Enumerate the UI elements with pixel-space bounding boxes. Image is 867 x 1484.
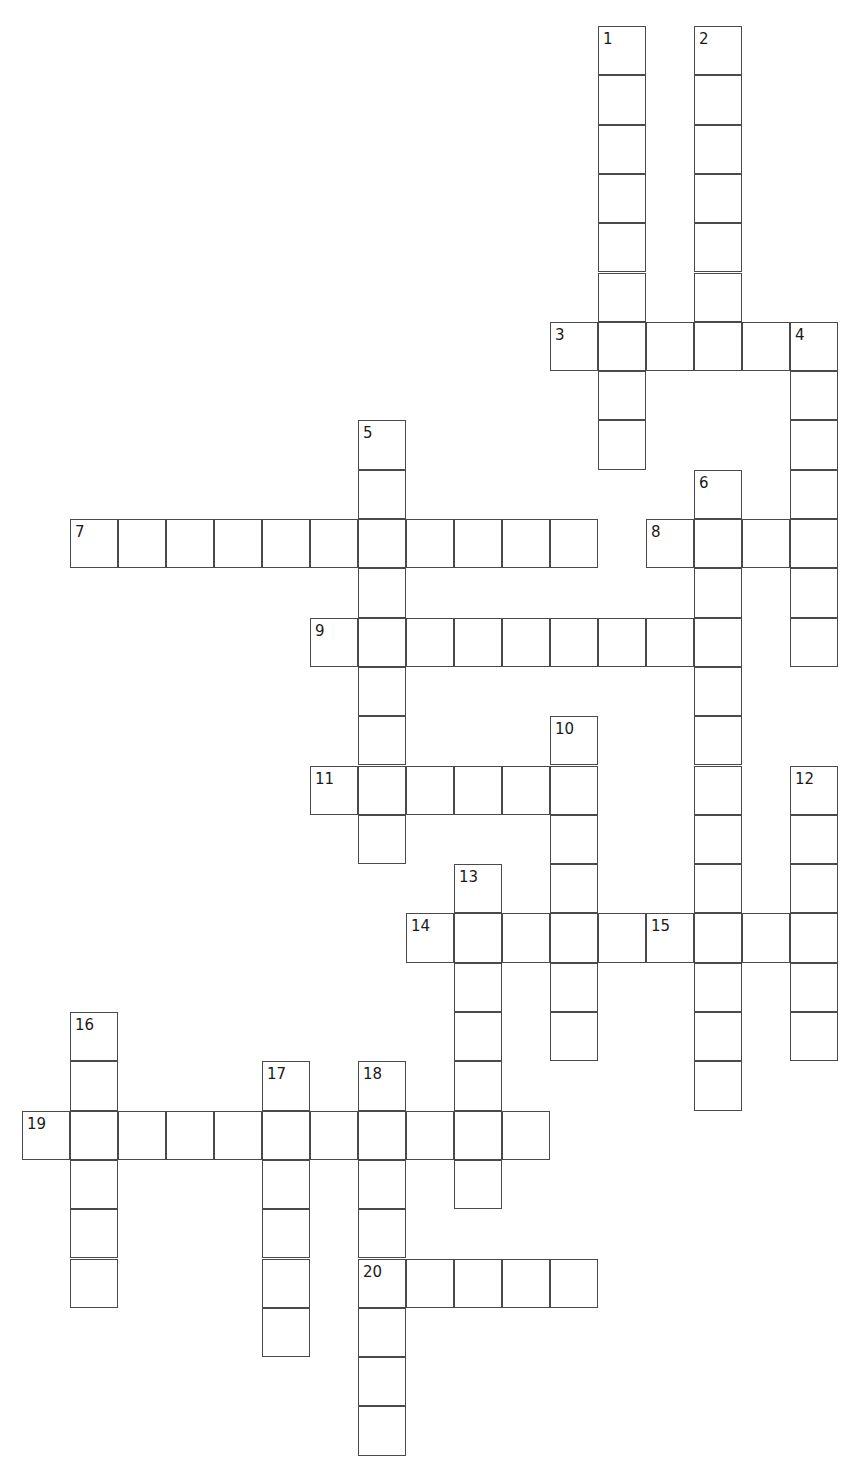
crossword-cell[interactable] xyxy=(454,963,502,1012)
crossword-cell[interactable] xyxy=(598,913,646,962)
crossword-cell[interactable] xyxy=(454,864,502,913)
crossword-cell[interactable] xyxy=(694,273,742,322)
crossword-cell[interactable] xyxy=(598,223,646,272)
crossword-cell[interactable] xyxy=(550,963,598,1012)
crossword-cell[interactable] xyxy=(694,223,742,272)
crossword-cell[interactable] xyxy=(262,1111,310,1160)
crossword-cell[interactable] xyxy=(502,618,550,667)
crossword-cell[interactable] xyxy=(454,1259,502,1308)
crossword-cell[interactable] xyxy=(694,125,742,174)
crossword-cell[interactable] xyxy=(502,1259,550,1308)
crossword-cell[interactable] xyxy=(310,766,358,815)
crossword-cell[interactable] xyxy=(790,1012,838,1061)
crossword-cell[interactable] xyxy=(694,75,742,124)
crossword-cell[interactable] xyxy=(358,618,406,667)
crossword-cell[interactable] xyxy=(214,1111,262,1160)
crossword-cell[interactable] xyxy=(694,174,742,223)
crossword-cell[interactable] xyxy=(502,913,550,962)
crossword-cell[interactable] xyxy=(166,519,214,568)
crossword-cell[interactable] xyxy=(694,519,742,568)
crossword-cell[interactable] xyxy=(454,766,502,815)
crossword-cell[interactable] xyxy=(70,1259,118,1308)
crossword-cell[interactable] xyxy=(646,322,694,371)
crossword-cell[interactable] xyxy=(454,1160,502,1209)
crossword-cell[interactable] xyxy=(358,766,406,815)
crossword-cell[interactable] xyxy=(70,519,118,568)
crossword-cell[interactable] xyxy=(646,913,694,962)
crossword-cell[interactable] xyxy=(598,75,646,124)
crossword-cell[interactable] xyxy=(790,420,838,469)
crossword-cell[interactable] xyxy=(262,1209,310,1258)
crossword-cell[interactable] xyxy=(550,815,598,864)
crossword-cell[interactable] xyxy=(598,125,646,174)
crossword-cell[interactable] xyxy=(742,519,790,568)
crossword-cell[interactable] xyxy=(214,519,262,568)
crossword-cell[interactable] xyxy=(502,766,550,815)
crossword-cell[interactable] xyxy=(454,1111,502,1160)
crossword-cell[interactable] xyxy=(694,815,742,864)
crossword-cell[interactable] xyxy=(358,1357,406,1406)
crossword-cell[interactable] xyxy=(310,618,358,667)
crossword-cell[interactable] xyxy=(118,519,166,568)
crossword-cell[interactable] xyxy=(694,568,742,617)
crossword-cell[interactable] xyxy=(598,420,646,469)
crossword-cell[interactable] xyxy=(358,1061,406,1110)
crossword-cell[interactable] xyxy=(550,322,598,371)
crossword-cell[interactable] xyxy=(358,1406,406,1455)
crossword-cell[interactable] xyxy=(406,519,454,568)
crossword-cell[interactable] xyxy=(790,470,838,519)
crossword-cell[interactable] xyxy=(406,1111,454,1160)
crossword-cell[interactable] xyxy=(742,322,790,371)
crossword-cell[interactable] xyxy=(310,1111,358,1160)
crossword-cell[interactable] xyxy=(406,913,454,962)
crossword-cell[interactable] xyxy=(454,519,502,568)
crossword-cell[interactable] xyxy=(358,519,406,568)
crossword-grid[interactable]: 1234567891011121314151617181920 xyxy=(0,0,867,1484)
crossword-cell[interactable] xyxy=(358,815,406,864)
crossword-cell[interactable] xyxy=(598,174,646,223)
crossword-cell[interactable] xyxy=(550,864,598,913)
crossword-cell[interactable] xyxy=(790,815,838,864)
crossword-cell[interactable] xyxy=(646,519,694,568)
crossword-cell[interactable] xyxy=(694,470,742,519)
crossword-cell[interactable] xyxy=(406,618,454,667)
crossword-cell[interactable] xyxy=(358,667,406,716)
crossword-cell[interactable] xyxy=(598,273,646,322)
crossword-cell[interactable] xyxy=(790,963,838,1012)
crossword-cell[interactable] xyxy=(358,1160,406,1209)
crossword-cell[interactable] xyxy=(550,519,598,568)
crossword-cell[interactable] xyxy=(694,26,742,75)
crossword-cell[interactable] xyxy=(694,667,742,716)
crossword-cell[interactable] xyxy=(70,1160,118,1209)
crossword-cell[interactable] xyxy=(454,913,502,962)
crossword-cell[interactable] xyxy=(502,519,550,568)
crossword-cell[interactable] xyxy=(790,913,838,962)
crossword-cell[interactable] xyxy=(262,1061,310,1110)
crossword-cell[interactable] xyxy=(358,1308,406,1357)
crossword-cell[interactable] xyxy=(70,1209,118,1258)
crossword-cell[interactable] xyxy=(550,913,598,962)
crossword-cell[interactable] xyxy=(694,913,742,962)
crossword-cell[interactable] xyxy=(70,1111,118,1160)
crossword-cell[interactable] xyxy=(70,1012,118,1061)
crossword-cell[interactable] xyxy=(550,716,598,765)
crossword-cell[interactable] xyxy=(358,420,406,469)
crossword-cell[interactable] xyxy=(454,1012,502,1061)
crossword-cell[interactable] xyxy=(454,618,502,667)
crossword-cell[interactable] xyxy=(790,371,838,420)
crossword-cell[interactable] xyxy=(694,618,742,667)
crossword-cell[interactable] xyxy=(694,716,742,765)
crossword-cell[interactable] xyxy=(358,1111,406,1160)
crossword-cell[interactable] xyxy=(310,519,358,568)
crossword-cell[interactable] xyxy=(598,26,646,75)
crossword-cell[interactable] xyxy=(694,766,742,815)
crossword-cell[interactable] xyxy=(406,1259,454,1308)
crossword-cell[interactable] xyxy=(262,1308,310,1357)
crossword-cell[interactable] xyxy=(598,371,646,420)
crossword-cell[interactable] xyxy=(358,716,406,765)
crossword-cell[interactable] xyxy=(790,766,838,815)
crossword-cell[interactable] xyxy=(262,519,310,568)
crossword-cell[interactable] xyxy=(550,1259,598,1308)
crossword-cell[interactable] xyxy=(694,1012,742,1061)
crossword-cell[interactable] xyxy=(790,322,838,371)
